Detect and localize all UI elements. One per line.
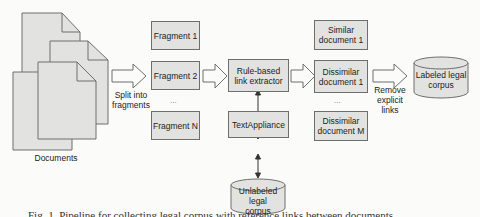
rule-based-link-extractor-box: Rule-based link extractor — [228, 59, 289, 92]
dissimilar-document-m-box: Dissimilar document M — [314, 111, 368, 141]
remove-explicit-links-label: Remove explicit links — [370, 85, 410, 115]
split-arrow-icon — [112, 64, 146, 88]
documents-ellipsis: ... — [334, 96, 341, 105]
extractor-to-dissimilar-arrow-icon — [291, 64, 315, 88]
fragments-ellipsis: ... — [170, 96, 177, 105]
fragment-2-box: Fragment 2 — [151, 61, 200, 90]
documents-label: Documents — [26, 153, 86, 163]
fragment-n-box: Fragment N — [151, 111, 200, 140]
fragment-to-extractor-arrow-icon — [203, 64, 227, 88]
dissimilar-document-1-box: Dissimilar document 1 — [314, 60, 368, 93]
similar-document-1-box: Similar document 1 — [314, 20, 368, 50]
labeled-corpus-label: Labeled legal corpus — [414, 70, 468, 90]
textappliance-box: TextAppliance — [228, 111, 289, 138]
fragment-1-box: Fragment 1 — [151, 21, 200, 50]
figure-caption: Fig. 1. Pipeline for collecting legal co… — [28, 209, 393, 217]
split-into-fragments-label: Split into fragments — [106, 90, 156, 110]
documents-icon — [13, 13, 108, 150]
